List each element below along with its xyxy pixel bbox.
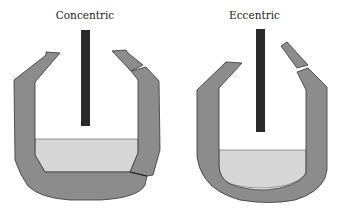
right-wall-upper — [112, 50, 143, 71]
concentric-diagram: Concentric — [0, 0, 170, 215]
concentric-furnace-svg — [0, 0, 170, 215]
eccentric-furnace-svg — [170, 0, 339, 215]
liquid-bath — [35, 139, 138, 172]
furnace-shell — [14, 52, 147, 200]
right-wall-upper — [281, 42, 308, 68]
liquid-bath — [219, 150, 306, 188]
electrode — [81, 30, 90, 126]
electrode — [256, 29, 265, 132]
eccentric-diagram: Eccentric — [170, 0, 339, 215]
